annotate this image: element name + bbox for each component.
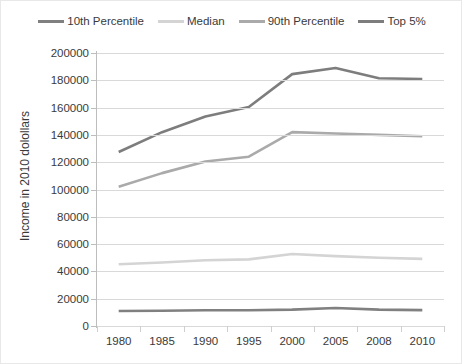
plot-area	[97, 53, 444, 326]
plot-wrapper: Income in 2010 dolollars 200000180000160…	[1, 1, 462, 364]
y-gridline	[97, 190, 444, 191]
y-tick-label: 100000	[5, 184, 89, 196]
x-tick-label: 2008	[355, 335, 403, 348]
x-tickmark	[140, 326, 141, 332]
y-tickmark	[91, 162, 97, 163]
y-gridline	[97, 162, 444, 163]
x-tick-label: 2000	[268, 335, 316, 348]
x-tickmark	[227, 326, 228, 332]
y-gridline	[97, 80, 444, 81]
y-tick-label: 200000	[5, 47, 89, 59]
y-tickmark	[91, 217, 97, 218]
y-axis-tick-labels: 2000001800001600001400001200001000008000…	[1, 1, 89, 364]
series-line	[119, 308, 423, 311]
y-tickmark	[91, 135, 97, 136]
x-tickmark	[401, 326, 402, 332]
x-tickmark	[97, 326, 98, 332]
y-tickmark	[91, 271, 97, 272]
y-tick-label: 60000	[5, 238, 89, 250]
x-tick-label: 1995	[225, 335, 273, 348]
y-tick-label: 140000	[5, 129, 89, 141]
x-tick-label: 2005	[312, 335, 360, 348]
y-gridline	[97, 299, 444, 300]
y-tick-label: 180000	[5, 74, 89, 86]
x-tick-label: 2010	[398, 335, 446, 348]
y-gridline	[97, 217, 444, 218]
income-percentile-line-chart: 10th PercentileMedian90th PercentileTop …	[0, 0, 462, 364]
x-tickmark	[357, 326, 358, 332]
x-tickmark	[271, 326, 272, 332]
series-line	[119, 132, 423, 187]
x-tickmark	[314, 326, 315, 332]
y-tickmark	[91, 244, 97, 245]
series-line	[119, 254, 423, 264]
y-gridline	[97, 244, 444, 245]
y-tickmark	[91, 190, 97, 191]
x-axis-tick-labels: 19801985199019952000200520082010	[97, 335, 444, 351]
x-tickmark	[184, 326, 185, 332]
y-tickmark	[91, 53, 97, 54]
x-tick-label: 1990	[181, 335, 229, 348]
x-tick-label: 1985	[138, 335, 186, 348]
y-tick-label: 120000	[5, 156, 89, 168]
y-gridline	[97, 53, 444, 54]
y-tickmark	[91, 80, 97, 81]
y-tickmark	[91, 299, 97, 300]
y-tick-label: 0	[5, 320, 89, 332]
y-tick-label: 40000	[5, 265, 89, 277]
y-tick-label: 80000	[5, 211, 89, 223]
y-gridline	[97, 135, 444, 136]
y-tick-label: 20000	[5, 293, 89, 305]
y-tickmark	[91, 108, 97, 109]
x-tickmark	[444, 326, 445, 332]
x-tick-label: 1980	[95, 335, 143, 348]
y-tick-label: 160000	[5, 102, 89, 114]
y-gridline	[97, 108, 444, 109]
y-gridline	[97, 271, 444, 272]
